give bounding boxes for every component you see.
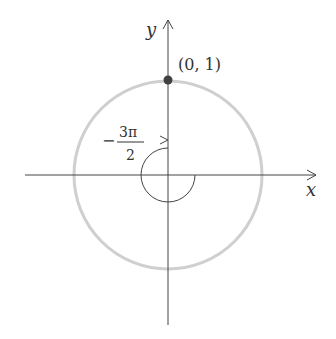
point-label: (0, 1) <box>178 55 221 74</box>
point-0-1 <box>164 76 173 85</box>
arc-arrowhead-icon <box>160 136 168 144</box>
angle-numerator: 3π <box>119 124 137 140</box>
angle-sign: − <box>102 131 115 150</box>
angle-denominator: 2 <box>126 147 135 163</box>
x-axis-label: x <box>306 179 316 200</box>
y-axis-label: y <box>145 19 157 40</box>
unit-circle-diagram: y x (0, 1) − 3π 2 <box>0 0 336 339</box>
